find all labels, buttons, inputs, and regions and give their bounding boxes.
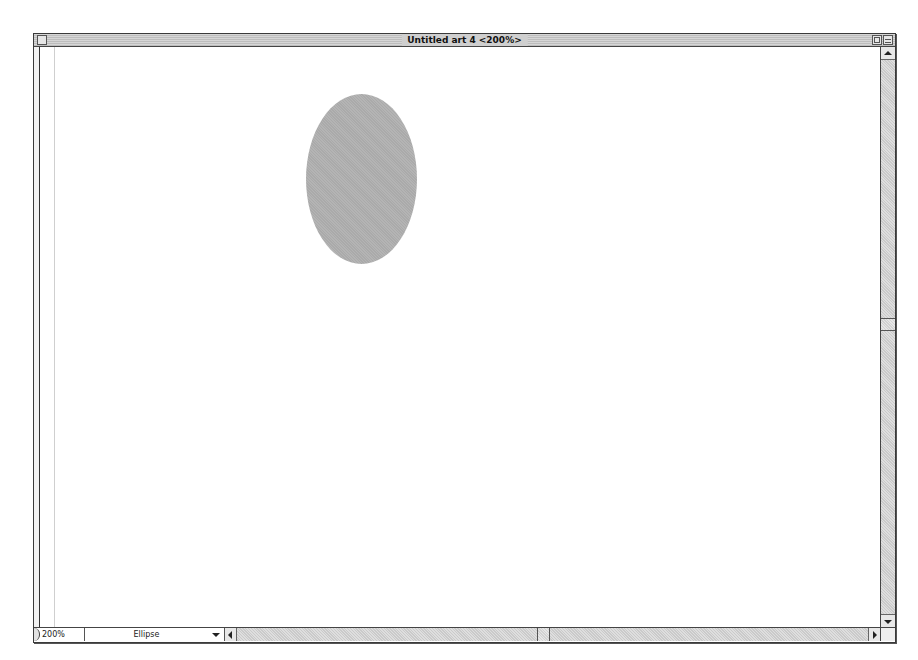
up-arrow-icon	[884, 51, 892, 55]
scroll-up-button[interactable]	[881, 47, 895, 60]
page-margin-guide	[54, 47, 55, 627]
bottom-status-bar: 200% Ellipse	[34, 627, 895, 642]
document-window: Untitled art 4 <200%> 200% Ellipse	[33, 33, 896, 643]
scroll-left-button[interactable]	[225, 628, 237, 641]
artboard-canvas[interactable]	[40, 47, 878, 627]
vertical-scrollbar[interactable]	[880, 47, 895, 627]
resize-grow-box[interactable]	[881, 628, 895, 641]
down-arrow-icon	[884, 620, 892, 624]
dropdown-arrow-icon	[212, 633, 220, 637]
zoom-level-field[interactable]: 200%	[40, 628, 85, 641]
zoom-box-icon[interactable]	[872, 35, 882, 45]
horizontal-scroll-thumb[interactable]	[537, 628, 550, 641]
title-bar[interactable]: Untitled art 4 <200%>	[34, 34, 895, 47]
horizontal-scrollbar[interactable]	[225, 628, 881, 641]
window-title: Untitled art 4 <200%>	[401, 34, 527, 46]
ellipse-shape[interactable]	[306, 94, 417, 264]
left-arrow-icon	[228, 631, 232, 639]
status-tool-label: Ellipse	[134, 630, 160, 639]
scroll-right-button[interactable]	[868, 628, 880, 641]
right-arrow-icon	[873, 631, 877, 639]
vertical-scroll-thumb[interactable]	[881, 318, 895, 331]
close-box-icon[interactable]	[37, 35, 47, 45]
status-popup[interactable]: Ellipse	[85, 628, 225, 641]
scroll-down-button[interactable]	[881, 614, 895, 627]
collapse-box-icon[interactable]	[883, 35, 893, 45]
